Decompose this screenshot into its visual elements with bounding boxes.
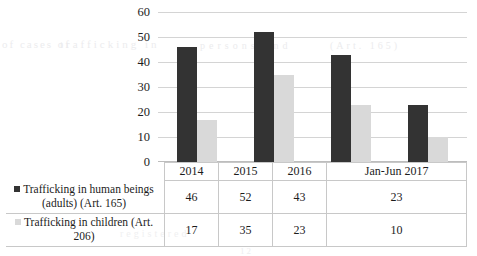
column-header: 2014 [165,163,219,181]
data-table: 2014 2015 2016 Jan-Jun 2017 Trafficking … [6,162,467,247]
table-cell: 43 [273,181,327,214]
gridline [158,87,467,88]
table-cell: 35 [219,214,273,247]
table-cell: 46 [165,181,219,214]
bar-jan-jun-2017-series2 [428,137,448,162]
gridline [158,12,467,13]
legend-swatch-icon [15,219,21,225]
table-corner-cell [6,163,165,181]
y-axis-tick-label: 30 [110,81,150,94]
table-cell: 52 [219,181,273,214]
legend-swatch-icon [14,186,20,192]
bar-2014-series1 [177,47,197,162]
table-row: Trafficking in human beings (adults) (Ar… [6,181,467,214]
table-header-row: 2014 2015 2016 Jan-Jun 2017 [6,163,467,181]
table-cell: 23 [273,214,327,247]
bar-2016-series2 [351,105,371,163]
scan-artifact-6: 12 [240,246,253,256]
bar-2014-series2 [197,120,217,163]
gridline [158,37,467,38]
y-axis-tick-label: 40 [110,56,150,69]
legend-item-adults: Trafficking in human beings (adults) (Ar… [6,181,165,214]
table-cell: 23 [327,181,467,214]
legend-label-line2: (adults) (Art. 165) [42,197,126,209]
bar-chart: 0102030405060 [0,0,477,165]
table-cell: 17 [165,214,219,247]
legend-label-line2: 206) [73,230,94,242]
column-header: 2015 [219,163,273,181]
plot-area [158,12,467,162]
gridline [158,62,467,63]
table-row: Trafficking in children (Art. 206) 17 35… [6,214,467,247]
bar-2015-series2 [274,75,294,163]
y-axis-tick-label: 50 [110,31,150,44]
y-axis-tick-label: 20 [110,106,150,119]
legend-label-line1: Trafficking in human beings [23,183,154,195]
column-header: Jan-Jun 2017 [327,163,467,181]
legend-label-line1: Trafficking in children (Art. [24,216,153,228]
y-axis-tick-label: 10 [110,131,150,144]
bar-2015-series1 [254,32,274,162]
bar-jan-jun-2017-series1 [408,105,428,163]
y-axis-tick-label: 60 [110,6,150,19]
table-cell: 10 [327,214,467,247]
column-header: 2016 [273,163,327,181]
bar-2016-series1 [331,55,351,163]
legend-item-children: Trafficking in children (Art. 206) [6,214,165,247]
